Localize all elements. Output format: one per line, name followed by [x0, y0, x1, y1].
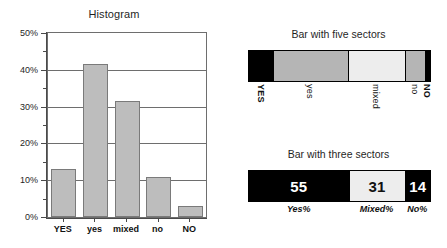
x-category-label: no — [152, 224, 163, 234]
y-tick-mark-minor — [43, 88, 46, 89]
five-sector-label: YES — [256, 84, 266, 103]
three-sector-segment: 31 — [349, 171, 405, 201]
three-sector-label: Yes% — [287, 204, 311, 214]
y-tick-mark-minor — [43, 125, 46, 126]
three-sector-panel: Bar with three sectors 553114 Yes%Mixed%… — [230, 148, 447, 238]
five-sector-segment — [425, 51, 430, 81]
gridline — [48, 70, 206, 71]
five-sector-segment — [405, 51, 425, 81]
y-tick-mark-minor — [43, 162, 46, 163]
three-sector-value: 55 — [249, 178, 349, 195]
five-sector-label: no — [410, 84, 420, 94]
x-tick-mark — [126, 218, 127, 222]
y-tick-label: 10% — [20, 175, 38, 185]
y-tick-mark — [41, 107, 46, 108]
three-sector-bar: 553114 — [248, 170, 431, 202]
x-category-label: mixed — [113, 224, 139, 234]
five-sector-segment — [348, 51, 405, 81]
three-sector-label: Mixed% — [360, 204, 394, 214]
x-category-label: NO — [182, 224, 196, 234]
five-sector-segment — [273, 51, 348, 81]
five-sector-bar — [248, 50, 431, 82]
histogram-bar — [51, 169, 76, 217]
five-sector-label: mixed — [371, 84, 381, 109]
histogram-bar — [178, 206, 203, 217]
y-tick-mark — [41, 180, 46, 181]
histogram-y-axis — [46, 32, 47, 219]
three-sector-value: 31 — [350, 178, 405, 195]
y-tick-mark-minor — [43, 51, 46, 52]
histogram-plot-area — [47, 32, 207, 218]
y-tick-label: 20% — [20, 138, 38, 148]
y-tick-mark-minor — [43, 199, 46, 200]
x-category-label: YES — [54, 224, 72, 234]
histogram-bar — [83, 64, 108, 217]
five-sector-panel: Bar with five sectors YESyesmixednoNO — [230, 28, 447, 133]
x-tick-mark — [189, 218, 190, 222]
histogram-panel: Histogram 50%40%30%20%10%0% YESyesmixedn… — [0, 0, 228, 248]
histogram-bar — [115, 101, 140, 217]
five-sector-label: NO — [422, 84, 432, 98]
three-sector-title: Bar with three sectors — [230, 148, 447, 160]
five-sector-labels: YESyesmixednoNO — [248, 84, 431, 130]
histogram-y-tick-labels: 50%40%30%20%10%0% — [0, 32, 46, 219]
y-tick-label: 50% — [20, 28, 38, 38]
five-sector-segment — [249, 51, 273, 81]
five-sector-title: Bar with five sectors — [230, 28, 447, 40]
histogram-bar — [146, 177, 171, 217]
three-sector-segment: 55 — [249, 171, 349, 201]
y-tick-mark — [41, 70, 46, 71]
x-tick-mark — [94, 218, 95, 222]
y-tick-mark — [41, 33, 46, 34]
three-sector-label: No% — [407, 204, 427, 214]
histogram-title: Histogram — [0, 8, 228, 20]
five-sector-label: yes — [305, 84, 315, 99]
x-tick-mark — [158, 218, 159, 222]
three-sector-segment: 14 — [405, 171, 430, 201]
three-sector-labels: Yes%Mixed%No% — [248, 204, 431, 222]
y-tick-mark — [41, 143, 46, 144]
three-sector-value: 14 — [406, 178, 430, 195]
y-tick-label: 0% — [25, 212, 38, 222]
x-tick-mark — [63, 218, 64, 222]
y-tick-label: 40% — [20, 65, 38, 75]
y-tick-label: 30% — [20, 102, 38, 112]
x-category-label: yes — [87, 224, 102, 234]
